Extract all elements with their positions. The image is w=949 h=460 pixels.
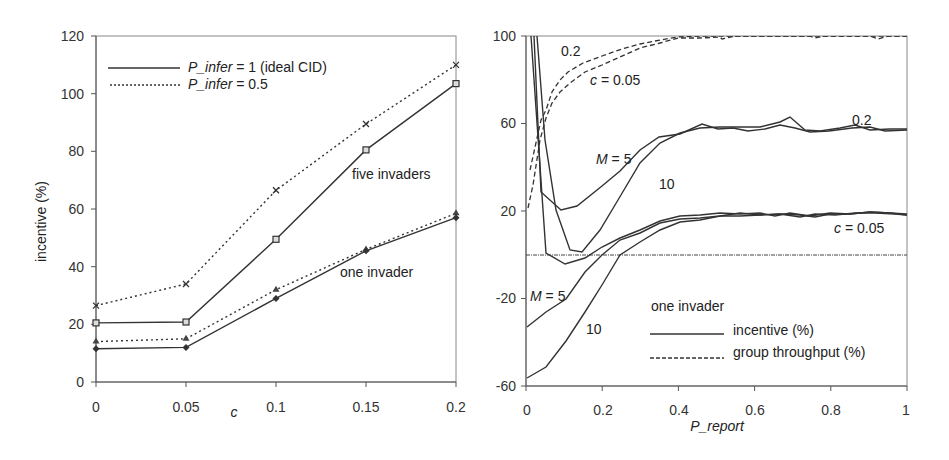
right-xtick-0: 0 <box>523 402 531 418</box>
annotation-10-bottom: 10 <box>586 321 602 337</box>
left-ytick-100: 100 <box>61 86 85 102</box>
left-plot-frame <box>96 36 456 382</box>
left-ytick-40: 40 <box>68 259 84 275</box>
left-chart: 0 20 40 60 80 100 120 0 0.05 0.1 0.15 0.… <box>33 28 466 420</box>
right-legend: one invader incentive (%) group throughp… <box>650 298 865 360</box>
left-xtick-0.1: 0.1 <box>266 399 286 415</box>
left-ytick-60: 60 <box>68 201 84 217</box>
annotation-10-top: 10 <box>659 176 675 192</box>
right-xtick-0.4: 0.4 <box>669 402 689 418</box>
right-ytick-minus60: -60 <box>496 378 516 394</box>
legend-throughput: group throughput (%) <box>733 344 865 360</box>
annotation-incentive-0.2: 0.2 <box>852 112 872 128</box>
right-xtick-0.2: 0.2 <box>593 402 613 418</box>
legend-incentive: incentive (%) <box>733 322 814 338</box>
left-xtick-0.05: 0.05 <box>172 399 199 415</box>
annotation-m5-bottom: M = 5 <box>530 288 566 304</box>
right-y-ticks: 100 60 20 -20 -60 <box>493 28 526 394</box>
right-chart: 100 60 20 -20 -60 0 0.2 0.4 0.6 0.8 1 P_… <box>493 28 910 434</box>
right-ytick-20: 20 <box>500 203 516 219</box>
series-throughput-c005 <box>528 36 907 208</box>
legend-title-one-invader: one invader <box>651 298 725 314</box>
left-y-ticks: 0 20 40 60 80 100 120 <box>61 28 96 390</box>
left-ytick-0: 0 <box>76 374 84 390</box>
right-xtick-0.8: 0.8 <box>821 402 841 418</box>
left-ytick-20: 20 <box>68 316 84 332</box>
left-x-ticks: 0 0.05 0.1 0.15 0.2 <box>92 382 466 415</box>
right-ytick-60: 60 <box>500 115 516 131</box>
left-xtick-0: 0 <box>92 399 100 415</box>
annotation-m5-top: M = 5 <box>596 151 632 167</box>
markers-diamond <box>93 214 460 352</box>
left-y-axis-label: incentive (%) <box>33 181 49 262</box>
annotation-c005: c = 0.05 <box>834 220 884 236</box>
annotation-five-invaders: five invaders <box>352 166 431 182</box>
right-xtick-1: 1 <box>902 402 910 418</box>
right-xtick-0.6: 0.6 <box>745 402 765 418</box>
right-x-axis-label: P_report <box>690 418 745 434</box>
left-ytick-80: 80 <box>68 143 84 159</box>
left-legend: P_infer = 1 (ideal CID) P_infer = 0.5 <box>108 59 327 92</box>
right-ytick-minus20: -20 <box>496 290 516 306</box>
legend-p-infer-1: P_infer = 1 (ideal CID) <box>188 59 327 75</box>
left-x-axis-label: c <box>231 404 238 420</box>
series-throughput-c02 <box>530 36 907 170</box>
annotation-one-invader: one invader <box>340 264 414 280</box>
right-series <box>527 36 907 378</box>
figure: 0 20 40 60 80 100 120 0 0.05 0.1 0.15 0.… <box>0 0 949 460</box>
annotation-throughput-0.2: 0.2 <box>561 43 581 59</box>
left-xtick-0.15: 0.15 <box>352 399 379 415</box>
right-x-ticks: 0 0.2 0.4 0.6 0.8 1 <box>523 386 910 418</box>
annotation-throughput-c005: c = 0.05 <box>590 72 640 88</box>
right-ytick-100: 100 <box>493 28 517 44</box>
left-ytick-120: 120 <box>61 28 85 44</box>
left-xtick-0.2: 0.2 <box>446 399 466 415</box>
legend-p-infer-05: P_infer = 0.5 <box>188 76 268 92</box>
